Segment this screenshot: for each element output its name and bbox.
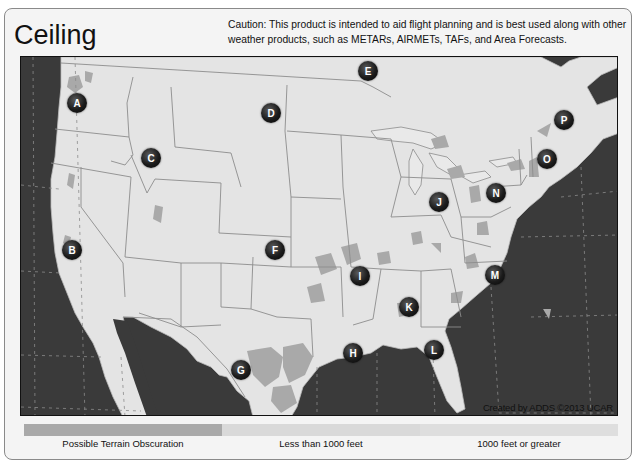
location-marker-g[interactable]: G	[231, 360, 251, 380]
location-marker-l[interactable]: L	[424, 340, 444, 360]
location-marker-o[interactable]: O	[537, 149, 557, 169]
caution-notice: Caution: This product is intended to aid…	[228, 17, 628, 47]
legend-label-terrain: Possible Terrain Obscuration	[24, 438, 222, 449]
location-marker-k[interactable]: K	[399, 297, 419, 317]
location-marker-h[interactable]: H	[343, 343, 363, 363]
location-marker-e[interactable]: E	[358, 61, 378, 81]
legend-label-high-ceiling: 1000 feet or greater	[420, 438, 618, 449]
legend-label-low-ceiling: Less than 1000 feet	[222, 438, 420, 449]
map-graphic	[21, 57, 618, 416]
location-marker-n[interactable]: N	[486, 183, 506, 203]
location-marker-m[interactable]: M	[485, 265, 505, 285]
legend-swatch-high-ceiling	[420, 424, 618, 436]
map-credit: Created by ADDS ©2013 UCAR	[483, 402, 613, 413]
page-title: Ceiling	[14, 20, 97, 51]
location-marker-f[interactable]: F	[265, 240, 285, 260]
location-marker-c[interactable]: C	[141, 148, 161, 168]
legend-swatch-terrain	[24, 424, 222, 436]
legend-swatch-low-ceiling	[222, 424, 420, 436]
location-marker-b[interactable]: B	[62, 240, 82, 260]
location-marker-d[interactable]: D	[261, 103, 281, 123]
location-marker-i[interactable]: I	[350, 266, 370, 286]
location-marker-p[interactable]: P	[554, 110, 574, 130]
location-marker-a[interactable]: A	[67, 93, 87, 113]
location-marker-j[interactable]: J	[429, 192, 449, 212]
ceiling-map[interactable]: ABCDEFGHIJKLMNOP Created by ADDS ©2013 U…	[20, 56, 618, 416]
